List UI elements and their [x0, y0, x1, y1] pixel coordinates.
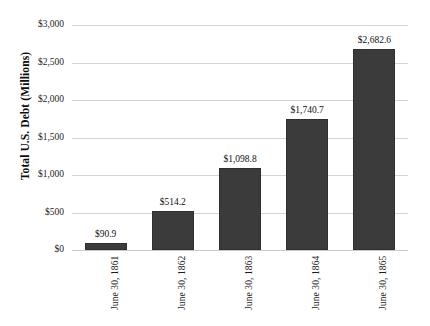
bar-value-label: $1,740.7 [262, 105, 352, 115]
y-axis-tick-label: $2,000 [8, 94, 64, 104]
bar[interactable] [85, 243, 127, 250]
bar-value-label: $90.9 [61, 229, 151, 239]
bar[interactable] [286, 119, 328, 250]
y-axis-tick-label: $1,000 [8, 169, 64, 179]
plot-area: $90.9$514.2$1,098.8$1,740.7$2,682.6 [72, 25, 408, 250]
bar-value-label: $1,098.8 [195, 154, 285, 164]
y-axis-tick-label: $3,000 [8, 19, 64, 29]
x-axis-tick-label: June 30, 1865 [378, 256, 388, 310]
y-axis-tick-label: $500 [8, 207, 64, 217]
x-axis-tick-label: June 30, 1862 [177, 256, 187, 310]
x-axis-tick-label: June 30, 1861 [110, 256, 120, 310]
x-axis-tick-label: June 30, 1863 [244, 256, 254, 310]
y-axis-tick-label: $2,500 [8, 57, 64, 67]
bar-value-label: $514.2 [128, 197, 218, 207]
y-axis-title: Total U.S. Debt (Millions) [19, 16, 31, 216]
bar[interactable] [219, 168, 261, 250]
gridline [72, 250, 408, 251]
x-axis-tick-label: June 30, 1864 [311, 256, 321, 310]
bar[interactable] [353, 49, 395, 250]
y-axis-tick-label: $1,500 [8, 132, 64, 142]
gridline [72, 25, 408, 26]
y-axis-tick-label: $0 [8, 244, 64, 254]
bar-value-label: $2,682.6 [329, 35, 419, 45]
bar[interactable] [152, 211, 194, 250]
bar-chart: Total U.S. Debt (Millions) $3,000$2,500$… [0, 0, 430, 326]
